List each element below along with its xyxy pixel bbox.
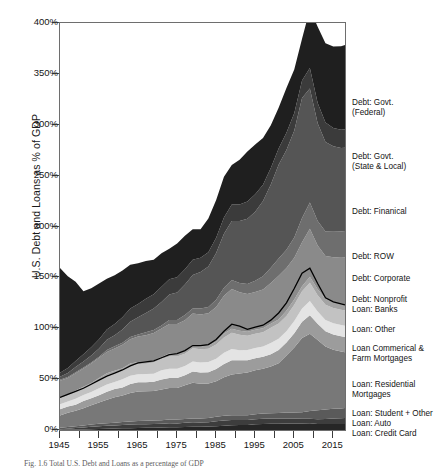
legend-label-4: Debt: Corporate bbox=[352, 274, 410, 284]
legend-label-3: Debt: ROW bbox=[352, 252, 394, 262]
y-tick-label: 150% bbox=[0, 271, 58, 281]
stacked-area-chart bbox=[60, 23, 345, 430]
legend-label-12: Loan: Credit Card bbox=[352, 429, 417, 439]
y-tick-label: 100% bbox=[0, 322, 58, 332]
y-tick-label: 400% bbox=[0, 17, 58, 27]
legend-label-11: Loan: Auto bbox=[352, 419, 391, 429]
legend-label-2: Debt: Finanical bbox=[352, 207, 407, 217]
x-tick-mark bbox=[196, 431, 197, 438]
y-tick-label: 300% bbox=[0, 119, 58, 129]
x-tick-mark bbox=[137, 431, 138, 438]
y-tick-label: 250% bbox=[0, 170, 58, 180]
y-tick-label: 0% bbox=[0, 424, 58, 434]
x-tick-mark bbox=[235, 431, 236, 438]
plot-area bbox=[59, 22, 346, 431]
legend-label-6: Loan: Banks bbox=[352, 305, 398, 315]
figure-caption: Fig. 1.6 Total U.S. Debt and Loans as a … bbox=[24, 459, 444, 468]
x-tick-mark bbox=[215, 431, 216, 438]
x-tick-mark bbox=[274, 431, 275, 438]
legend-label-1: Debt: Govt. (State & Local) bbox=[352, 152, 406, 171]
legend-label-10: Loan: Student + Other bbox=[352, 409, 433, 419]
x-tick-mark bbox=[59, 431, 60, 438]
legend-label-0: Debt: Govt. (Federal) bbox=[352, 98, 393, 117]
x-tick-mark bbox=[157, 431, 158, 438]
x-tick-mark bbox=[332, 431, 333, 438]
y-tick-label: 50% bbox=[0, 373, 58, 383]
x-tick-label: 2015 bbox=[309, 440, 355, 450]
x-tick-mark bbox=[118, 431, 119, 438]
x-tick-mark bbox=[176, 431, 177, 438]
x-tick-mark bbox=[254, 431, 255, 438]
y-tick-label: 200% bbox=[0, 221, 58, 231]
x-tick-mark bbox=[313, 431, 314, 438]
legend-label-9: Loan: Residential Mortgages bbox=[352, 380, 415, 399]
x-tick-mark bbox=[98, 431, 99, 438]
y-tick-label: 350% bbox=[0, 68, 58, 78]
x-tick-mark bbox=[293, 431, 294, 438]
legend-label-5: Debt: Nonprofit bbox=[352, 295, 407, 305]
legend-label-8: Loan Commerical & Farm Mortgages bbox=[352, 344, 424, 363]
figure-container: U.S. Debt and Loans as % of GDP 0%50%100… bbox=[0, 0, 446, 468]
legend-label-7: Loan: Other bbox=[352, 325, 395, 335]
x-tick-mark bbox=[79, 431, 80, 438]
